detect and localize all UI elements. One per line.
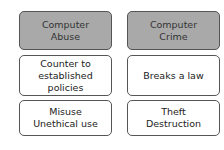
- crime-examples-box: Theft Destruction: [127, 100, 220, 136]
- computer-abuse-header: Computer Abuse: [19, 11, 112, 50]
- computer-crime-header: Computer Crime: [127, 11, 220, 50]
- abuse-definition-box: Counter to established policies: [19, 55, 112, 96]
- crime-definition-box: Breaks a law: [127, 55, 220, 96]
- abuse-examples-box: Misuse Unethical use: [19, 100, 112, 136]
